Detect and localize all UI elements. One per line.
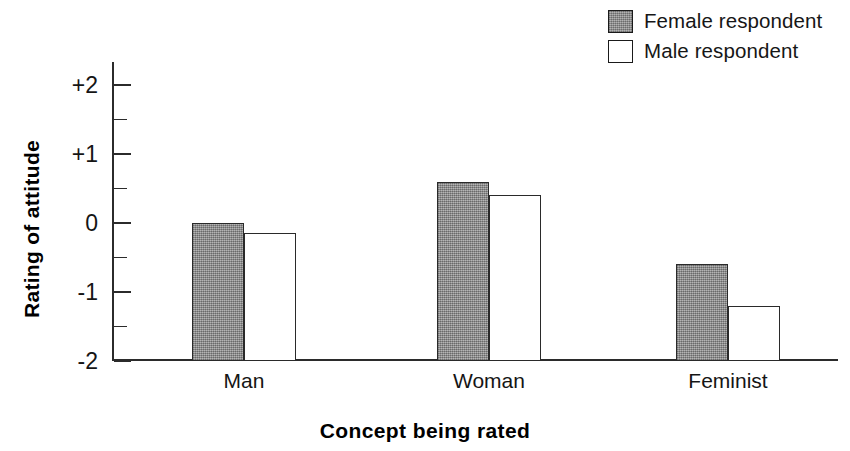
y-tick-label: -1: [36, 279, 98, 306]
bar-chart-figure: Female respondent Male respondent +2+10-…: [0, 0, 850, 451]
y-tick-label: 0: [36, 210, 98, 237]
chart-legend: Female respondent Male respondent: [608, 6, 850, 66]
y-tick-major: [114, 360, 131, 362]
y-axis-line: [112, 62, 114, 361]
y-tick-minor: [114, 188, 127, 190]
legend-item-female: Female respondent: [608, 6, 850, 36]
y-tick-major: [114, 291, 131, 293]
bar-man-female: [192, 223, 244, 361]
legend-swatch-female-icon: [608, 10, 633, 33]
legend-label-male: Male respondent: [644, 39, 798, 63]
bar-woman-female: [437, 182, 489, 361]
legend-label-female: Female respondent: [644, 9, 822, 33]
y-tick-major: [114, 153, 131, 155]
bar-woman-male: [489, 195, 541, 361]
x-axis-title: Concept being rated: [0, 419, 850, 443]
y-tick-major: [114, 84, 131, 86]
y-tick-label: -2: [36, 348, 98, 375]
legend-item-male: Male respondent: [608, 36, 850, 66]
y-tick-label: +1: [36, 141, 98, 168]
legend-swatch-male-icon: [608, 40, 633, 63]
y-tick-major: [114, 222, 131, 224]
y-axis-title: Rating of attitude: [20, 99, 44, 359]
x-category-label-man: Man: [148, 369, 340, 393]
y-tick-label: +2: [36, 72, 98, 99]
y-tick-minor: [114, 257, 127, 259]
y-tick-minor: [114, 119, 127, 121]
x-category-label-feminist: Feminist: [632, 369, 824, 393]
bar-feminist-female: [676, 264, 728, 361]
x-category-label-woman: Woman: [393, 369, 585, 393]
bar-feminist-male: [728, 306, 780, 361]
y-tick-minor: [114, 326, 127, 328]
bar-man-male: [244, 233, 296, 361]
